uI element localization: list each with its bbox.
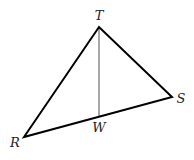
label-s: S bbox=[177, 91, 186, 106]
label-r: R bbox=[9, 135, 20, 150]
label-t: T bbox=[95, 8, 105, 23]
triangle-diagram: T R S W bbox=[0, 0, 194, 160]
label-w: W bbox=[92, 120, 107, 135]
